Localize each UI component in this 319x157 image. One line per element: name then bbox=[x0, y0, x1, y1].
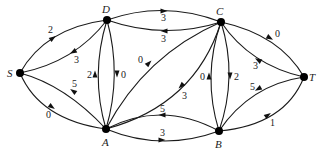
node-label-a: A bbox=[101, 136, 109, 148]
edges-layer bbox=[20, 10, 304, 141]
edge-weight-label: 0 bbox=[46, 109, 51, 120]
node-label-b: B bbox=[215, 138, 222, 150]
edge-weight-label: 0 bbox=[275, 28, 280, 39]
arrowhead-icon bbox=[266, 34, 275, 42]
edge-d-to-s bbox=[20, 20, 107, 73]
edge-weight-label: 3 bbox=[253, 60, 258, 71]
edge-weight-label: 1 bbox=[270, 117, 275, 128]
edge-weight-label: 0 bbox=[138, 54, 143, 65]
arrowhead-icon bbox=[115, 71, 120, 78]
edge-a-to-s bbox=[20, 73, 106, 129]
edge-weight-label: 2 bbox=[48, 24, 53, 35]
flow-network-diagram: 235020330302530351 SDCTAB bbox=[0, 0, 319, 157]
node-b bbox=[215, 127, 223, 135]
edge-d-to-a bbox=[106, 20, 114, 129]
node-c bbox=[217, 18, 225, 26]
edge-b-to-c bbox=[211, 22, 221, 131]
arrowhead-icon bbox=[49, 34, 58, 42]
edge-weight-label: 0 bbox=[121, 69, 126, 80]
edge-t-to-b bbox=[219, 77, 304, 131]
edge-weight-label: 3 bbox=[160, 127, 165, 138]
edge-a-to-d bbox=[98, 20, 107, 129]
node-s bbox=[16, 69, 24, 77]
edge-c-to-b bbox=[219, 22, 229, 131]
edge-b-to-t bbox=[219, 77, 304, 131]
edge-s-to-d bbox=[20, 20, 107, 73]
edge-weight-label: 3 bbox=[182, 90, 187, 101]
arrowheads-layer bbox=[48, 9, 275, 143]
edge-weight-label: 3 bbox=[161, 12, 166, 23]
node-t bbox=[300, 73, 308, 81]
edge-weight-label: 2 bbox=[87, 69, 92, 80]
node-a bbox=[102, 125, 110, 133]
node-d bbox=[103, 16, 111, 24]
edge-weight-label: 2 bbox=[234, 71, 239, 82]
arrowhead-icon bbox=[93, 71, 98, 78]
arrowhead-icon bbox=[145, 59, 153, 67]
node-label-c: C bbox=[216, 5, 224, 17]
edge-weight-label: 0 bbox=[200, 71, 205, 82]
node-label-t: T bbox=[309, 71, 316, 83]
node-label-s: S bbox=[7, 67, 13, 79]
node-label-d: D bbox=[101, 3, 110, 15]
arrowhead-icon bbox=[228, 73, 233, 80]
edge-s-to-a bbox=[20, 73, 106, 129]
edge-weight-label: 5 bbox=[250, 81, 255, 92]
arrowhead-icon bbox=[159, 138, 166, 143]
edge-c-to-t bbox=[221, 22, 304, 77]
edge-weight-label: 5 bbox=[160, 103, 165, 114]
edge-weight-label: 3 bbox=[74, 54, 79, 65]
edge-t-to-c bbox=[221, 22, 304, 77]
edge-weight-label: 3 bbox=[161, 33, 166, 44]
edge-weight-label: 5 bbox=[72, 78, 77, 89]
